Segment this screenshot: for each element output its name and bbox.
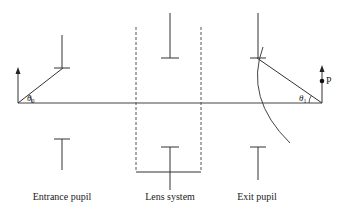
exit-ray [257, 58, 322, 103]
exit-pupil-upper-stop [250, 13, 266, 58]
entrance-pupil-lower-stop [54, 139, 70, 170]
lens-system-lower-stop [161, 147, 179, 190]
image-arrow-icon [320, 65, 325, 103]
theta1-label: θ1 [299, 93, 306, 104]
entrance-pupil-label: Entrance pupil [33, 191, 92, 202]
theta1-arc [309, 96, 311, 103]
object-arrow-icon [16, 67, 21, 103]
lens-system-label: Lens system [145, 191, 195, 202]
theta0-label: θ0 [27, 93, 34, 104]
entrance-pupil-upper-stop [54, 35, 70, 68]
lens-system-upper-stop [161, 13, 179, 58]
exit-pupil-lower-stop [250, 147, 266, 180]
optical-diagram: θ0 θ1 P Entrance pupil Lens system Exit … [0, 0, 346, 211]
entrance-ray [18, 68, 63, 103]
point-p-label: P [326, 75, 332, 86]
lens-system-box [136, 27, 201, 172]
exit-pupil-label: Exit pupil [237, 191, 277, 202]
point-p-dot [320, 79, 325, 84]
